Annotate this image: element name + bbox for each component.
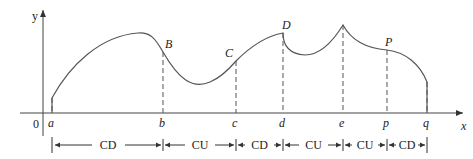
tick-q: q [423,116,429,130]
interval-e-p: CU [357,138,374,152]
interval-p-q: CD [399,138,416,152]
point-D: D [281,18,291,32]
x-tick-labels: a b c d e p q [48,116,429,130]
tick-c: c [232,116,238,130]
tick-b: b [159,116,165,130]
guide-lines [52,25,427,113]
interval-c-d: CD [251,138,268,152]
point-labels: B C D P [165,18,393,60]
tick-a: a [48,116,54,130]
tick-d: d [279,116,286,130]
interval-a-b: CD [100,138,117,152]
y-axis-label: y [32,9,38,23]
function-curve [52,25,427,113]
point-B: B [165,37,173,51]
axes: y x 0 [20,9,467,136]
point-C: C [225,46,234,60]
interval-d-e: CU [305,138,322,152]
tick-p: p [382,116,389,130]
origin-label: 0 [33,117,39,131]
concavity-diagram: y x 0 a b c d e p q B C D P [0,0,473,159]
interval-b-c: CU [192,138,209,152]
x-axis-label: x [460,119,467,133]
tick-e: e [339,116,345,130]
point-P: P [384,35,393,49]
